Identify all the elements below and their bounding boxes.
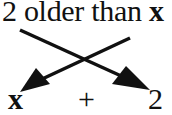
expression-operator: + <box>78 84 95 114</box>
expression-variable: x <box>8 84 23 114</box>
expression-constant: 2 <box>148 84 163 114</box>
